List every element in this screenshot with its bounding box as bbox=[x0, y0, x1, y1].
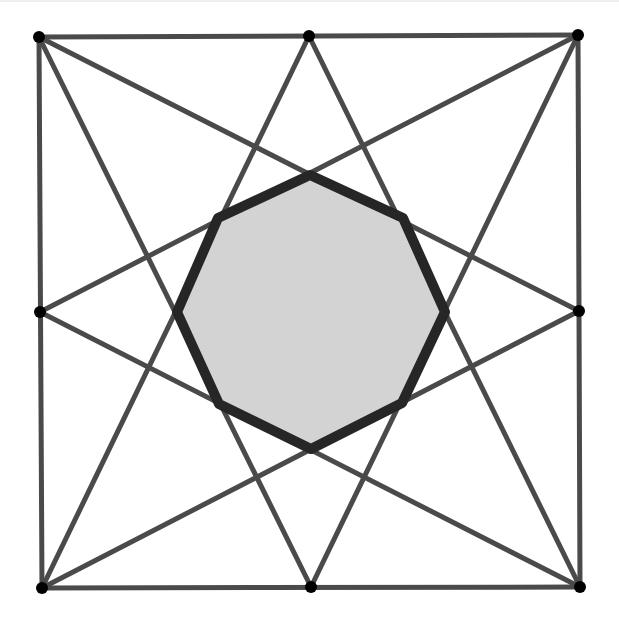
central-octagon bbox=[177, 175, 445, 449]
point-bm bbox=[305, 581, 317, 593]
point-mr bbox=[573, 305, 585, 317]
point-ml bbox=[34, 306, 46, 318]
point-br bbox=[574, 581, 586, 593]
geometry-diagram bbox=[0, 0, 619, 628]
point-tr bbox=[572, 29, 584, 41]
octagon-shape bbox=[177, 175, 445, 449]
point-tm bbox=[303, 30, 315, 42]
point-bl bbox=[36, 582, 48, 594]
point-tl bbox=[33, 31, 45, 43]
